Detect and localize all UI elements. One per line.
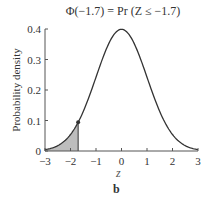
density-curve [45, 29, 198, 149]
marked-point [76, 120, 80, 124]
x-tick-label: 2 [170, 155, 176, 167]
y-tick-label: 0.3 [27, 54, 41, 66]
y-tick-label: 0.2 [27, 84, 41, 96]
x-tick-label: −1 [90, 155, 102, 167]
x-tick-label: −2 [65, 155, 77, 167]
y-tick-label: 0.4 [27, 23, 41, 35]
y-tick-label: 0.1 [27, 115, 41, 127]
x-tick-label: 0 [119, 155, 125, 167]
shaded-area [45, 122, 78, 151]
y-tick-label: 0 [36, 145, 42, 157]
x-tick-label: 1 [144, 155, 150, 167]
plot-area: −3−2−1012300.10.20.30.4 [0, 0, 206, 199]
x-tick-label: 3 [195, 155, 201, 167]
